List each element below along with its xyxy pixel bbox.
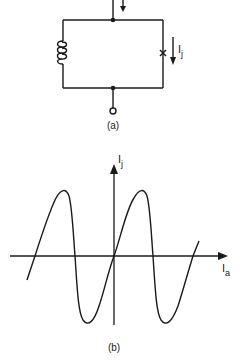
inductor-icon	[58, 41, 67, 64]
y-axis-label: Ij	[118, 153, 123, 169]
caption-a: (a)	[107, 120, 119, 131]
graph-b	[10, 164, 228, 325]
terminal-icon	[110, 108, 116, 114]
y-axis-arrowhead	[110, 164, 118, 174]
ij-vs-ia-curve	[27, 191, 199, 324]
input-current-arrowhead	[120, 6, 126, 12]
junction-current-label: Ij	[178, 43, 183, 59]
junction-current-arrowhead	[170, 57, 176, 65]
circuit-a	[58, 0, 177, 114]
top-node	[111, 18, 116, 23]
diagram: Ij (a) Ij Ia (b)	[0, 0, 245, 364]
caption-b: (b)	[108, 342, 120, 353]
x-axis-arrowhead	[218, 252, 228, 260]
x-axis-label: Ia	[222, 262, 230, 278]
